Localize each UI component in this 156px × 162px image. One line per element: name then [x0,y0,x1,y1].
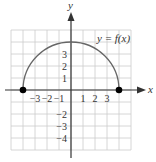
left-endpoint [20,87,27,94]
y-tick-label: 2 [62,61,67,72]
y-axis-label: y [67,0,73,11]
x-tick-label: 3 [105,93,110,104]
y-axis-arrow-icon [68,12,75,21]
y-tick-label: −2 [56,109,67,120]
y-tick-label: 1 [62,73,67,84]
x-tick-label: 2 [93,93,98,104]
y-tick-label: −4 [56,133,67,144]
x-tick-label: −3 [30,93,41,104]
function-graph: x y −3−2−1123 321−2−3−4 y = f(x) [0,0,156,162]
x-tick-label: −2 [42,93,53,104]
x-axis-label: x [147,83,153,95]
x-axis-arrow-icon [137,87,146,94]
curve-label: y = f(x) [96,32,130,45]
right-endpoint [116,87,123,94]
y-axis: y [67,0,75,158]
x-tick-label: −1 [54,93,65,104]
x-tick-label: 1 [81,93,86,104]
y-tick-label: −3 [56,121,67,132]
y-tick-label: 3 [62,49,67,60]
